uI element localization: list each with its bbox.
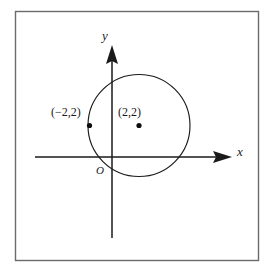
- coordinate-plane-figure: y x O (−2,2) (2,2): [0, 0, 269, 272]
- point-dot-left: [87, 123, 92, 128]
- figure-container: y x O (−2,2) (2,2): [0, 0, 269, 272]
- point-label-center: (2,2): [118, 105, 141, 119]
- figure-border: [16, 12, 259, 261]
- point-label-left: (−2,2): [51, 105, 81, 119]
- x-axis-label: x: [236, 144, 243, 159]
- point-dot-center: [136, 123, 141, 128]
- y-axis-label: y: [100, 28, 108, 43]
- origin-label: O: [96, 164, 104, 176]
